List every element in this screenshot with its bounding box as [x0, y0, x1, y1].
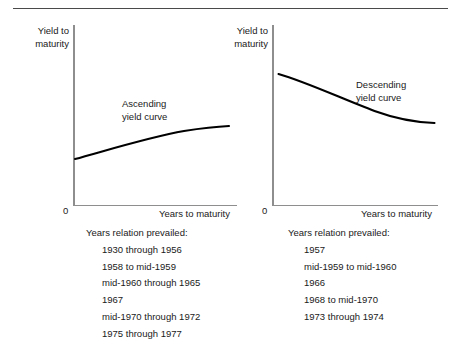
notes-item: 1973 through 1974	[288, 309, 396, 326]
notes-item: mid-1970 through 1972	[86, 309, 200, 326]
notes-item: 1930 through 1956	[86, 242, 200, 259]
notes-item: mid-1959 to mid-1960	[288, 259, 396, 276]
notes-title-ascending: Years relation prevailed:	[86, 225, 200, 242]
chart-panel-descending: Yield to maturity Years to maturity 0 De…	[230, 0, 461, 345]
notes-item: 1957	[288, 242, 396, 259]
notes-item: 1966	[288, 275, 396, 292]
descending-curve-annotation: Descending yield curve	[356, 79, 406, 104]
notes-title-descending: Years relation prevailed:	[288, 225, 396, 242]
notes-item: 1975 through 1977	[86, 326, 200, 343]
ascending-curve-annotation: Ascending yield curve	[122, 98, 167, 123]
notes-item: 1967	[86, 292, 200, 309]
notes-block-ascending: Years relation prevailed: 1930 through 1…	[86, 225, 200, 343]
notes-item: 1968 to mid-1970	[288, 292, 396, 309]
chart-panel-ascending: Yield to maturity Years to maturity 0 As…	[0, 0, 240, 345]
notes-block-descending: Years relation prevailed: 1957 mid-1959 …	[288, 225, 396, 326]
notes-list-ascending: 1930 through 1956 1958 to mid-1959 mid-1…	[86, 242, 200, 343]
yield-curve-figure: Yield to maturity Years to maturity 0 As…	[0, 0, 461, 345]
notes-item: 1958 to mid-1959	[86, 259, 200, 276]
notes-list-descending: 1957 mid-1959 to mid-1960 1966 1968 to m…	[288, 242, 396, 326]
ascending-curve-path	[75, 126, 229, 159]
notes-item: mid-1960 through 1965	[86, 275, 200, 292]
